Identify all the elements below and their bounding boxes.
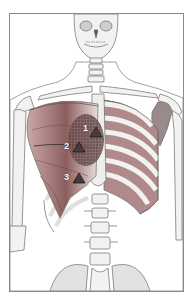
- cervical-spine: [88, 58, 104, 82]
- forearm-right: [10, 226, 26, 252]
- trigger-point-2-label: 2: [64, 142, 69, 151]
- anatomy-illustration: [0, 0, 192, 300]
- skull: [74, 14, 118, 60]
- trigger-point-3-label: 3: [64, 173, 69, 182]
- trigger-point-1-label: 1: [83, 124, 88, 133]
- referred-pain-zone: [68, 114, 104, 166]
